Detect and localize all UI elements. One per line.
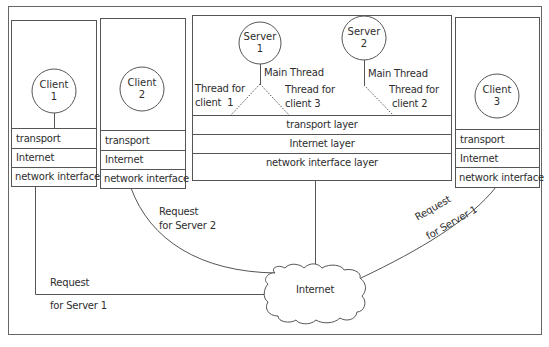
server-1-number: 1 [238,43,282,55]
client-1-request-line2: for Server 1 [50,300,107,311]
client-3-layer-network-interface: network interface [456,168,539,187]
server-1-thread-client-3-line1: Thread for [285,84,335,95]
client-1-layer-transport: transport [12,129,96,148]
server-2-number: 2 [342,38,386,50]
client-1-layer-internet: Internet [12,148,96,167]
server-2-thread-client-2-line2: client 2 [392,98,427,109]
server-1-thread-client-1-line2: client 1 [195,97,233,108]
network-diagram: Client 1 transport Internet network inte… [0,0,549,347]
client-2-layer-internet: Internet [101,150,185,169]
client-1-number: 1 [32,91,76,103]
server-layer-transport: transport layer [193,119,451,130]
client-2-number: 2 [120,89,164,101]
client-3-layer-transport: transport [456,130,539,149]
server-1-main-thread-label: Main Thread [264,67,324,78]
client-2-request-line1: Request [159,206,198,217]
server-2-thread-client-2-line1: Thread for [389,84,439,95]
client-3-label: Client 3 [475,84,519,108]
client-3-number: 3 [475,96,519,108]
client-2-title: Client [120,77,164,89]
client-3-layer-internet: Internet [456,149,539,168]
client-1-request-line1: Request [50,277,89,288]
client-1-layer-network-interface: network interface [12,167,96,186]
client-2-layer-transport: transport [101,131,185,150]
server-1-title: Server [238,31,282,43]
internet-cloud-label: Internet [296,284,334,295]
server-layer-network-interface: network interface layer [193,157,451,168]
server-1-thread-client-1-line1: Thread for [195,83,245,94]
client-1-title: Client [32,79,76,91]
server-layer-internet: Internet layer [193,138,451,149]
client-2-request-line2: for Server 2 [159,220,216,231]
server-2-main-thread-label: Main Thread [368,68,428,79]
client-1-label: Client 1 [32,79,76,103]
client-2-label: Client 2 [120,77,164,101]
server-2-label: Server 2 [342,26,386,50]
client-2-layer-network-interface: network interface [101,169,185,188]
server-1-thread-client-3-line2: client 3 [285,98,320,109]
server-1-label: Server 1 [238,31,282,55]
client-3-title: Client [475,84,519,96]
server-2-title: Server [342,26,386,38]
